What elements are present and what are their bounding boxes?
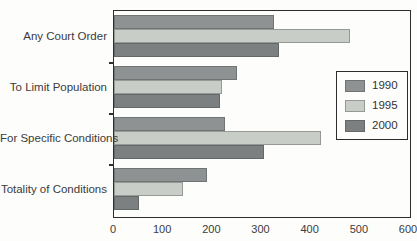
bar-group-totality-of-conditions [114,168,207,210]
y-axis-tick [109,164,114,166]
bar-1995-for-specific-conditions [114,131,321,145]
x-axis-tick-label: 200 [202,223,220,235]
bar-1990-any-court-order [114,15,274,29]
bar-1995-any-court-order [114,29,350,43]
legend-swatch-1990 [345,80,365,92]
bar-2000-any-court-order [114,43,279,57]
bar-chart: Any Court OrderTo Limit PopulationFor Sp… [0,0,417,241]
x-axis-tick-label: 600 [399,223,417,235]
category-label-totality-of-conditions: Totality of Conditions [0,183,107,195]
bar-1990-to-limit-population [114,66,237,80]
legend-label-1995: 1995 [372,100,398,112]
x-axis-tick-label: 400 [300,223,318,235]
bar-1995-totality-of-conditions [114,182,183,196]
bar-2000-to-limit-population [114,94,220,108]
legend-item-1995: 1995 [345,99,399,112]
bar-1990-for-specific-conditions [114,117,225,131]
legend-label-1990: 1990 [372,80,398,92]
y-axis-tick [109,62,114,64]
legend-swatch-1995 [345,100,365,112]
x-axis-tick-label: 0 [110,223,116,235]
x-axis-tick-label: 300 [251,223,269,235]
bar-2000-for-specific-conditions [114,145,264,159]
category-label-any-court-order: Any Court Order [0,30,107,42]
category-label-to-limit-population: To Limit Population [0,81,107,93]
legend-swatch-2000 [345,120,365,132]
bar-group-any-court-order [114,15,350,57]
bar-group-for-specific-conditions [114,117,321,159]
bar-1990-totality-of-conditions [114,168,207,182]
bar-1995-to-limit-population [114,80,222,94]
category-label-for-specific-conditions: For Specific Conditions [0,132,107,144]
x-axis-tick-label: 500 [350,223,368,235]
legend: 199019952000 [336,71,408,140]
x-axis-tick-label: 100 [153,223,171,235]
legend-label-2000: 2000 [372,120,398,132]
bar-2000-totality-of-conditions [114,196,139,210]
y-axis-tick [109,113,114,115]
bar-group-to-limit-population [114,66,237,108]
legend-item-2000: 2000 [345,119,399,132]
legend-item-1990: 1990 [345,79,399,92]
